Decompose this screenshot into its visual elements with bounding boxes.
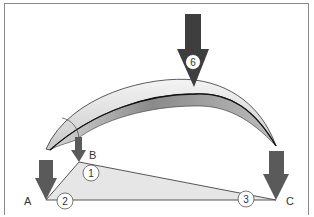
svg-text:6: 6 xyxy=(190,57,196,68)
svg-text:2: 2 xyxy=(62,196,68,207)
load-arrow-c xyxy=(263,151,289,200)
marker-2: 2 xyxy=(57,193,73,209)
point-label-c: C xyxy=(286,195,294,207)
svg-text:3: 3 xyxy=(243,194,249,205)
svg-text:1: 1 xyxy=(88,168,94,179)
point-label-b: B xyxy=(89,149,96,161)
marker-6: 6 xyxy=(186,55,201,70)
load-arrow-6 xyxy=(177,14,209,87)
point-label-a: A xyxy=(24,195,32,207)
marker-3: 3 xyxy=(238,191,254,207)
force-diagram: 6 1 2 3 A B C xyxy=(0,0,314,217)
marker-1: 1 xyxy=(83,165,99,181)
